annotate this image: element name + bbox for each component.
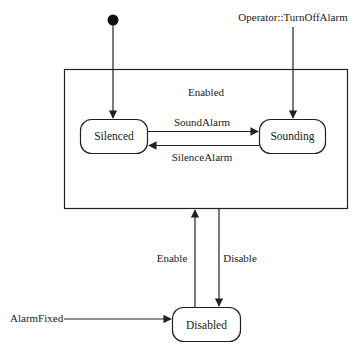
disable-label: Disable	[223, 252, 257, 264]
enable-label: Enable	[157, 252, 188, 264]
state-sounding[interactable]: Sounding	[260, 120, 326, 154]
turn-off-alarm-label: Operator::TurnOffAlarm	[238, 11, 348, 23]
state-disabled[interactable]: Disabled	[173, 308, 241, 342]
silence-alarm-label: SilenceAlarm	[172, 151, 233, 163]
state-diagram: Enabled Operator::TurnOffAlarm Silenced …	[0, 0, 358, 352]
state-silenced[interactable]: Silenced	[81, 120, 148, 154]
sound-alarm-label: SoundAlarm	[174, 116, 231, 128]
disabled-state-label: Disabled	[186, 319, 227, 331]
enabled-state-label: Enabled	[188, 86, 225, 98]
silenced-state-label: Silenced	[94, 130, 134, 142]
alarm-fixed-label: AlarmFixed	[10, 312, 64, 324]
initial-node	[108, 15, 119, 26]
sounding-state-label: Sounding	[270, 130, 314, 143]
